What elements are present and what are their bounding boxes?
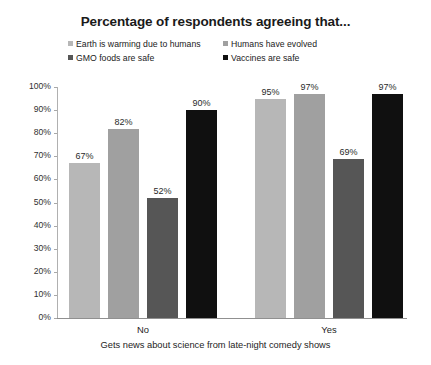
bar[interactable]: 97% — [372, 94, 403, 318]
legend-swatch-icon — [223, 41, 228, 46]
y-axis-tick-label: 90% — [34, 104, 51, 114]
legend-item[interactable]: GMO foods are safe — [68, 54, 223, 63]
y-axis-tick-mark — [54, 179, 57, 180]
bar-group: 95%97%69%97% — [255, 87, 403, 318]
legend-item-label: GMO foods are safe — [76, 54, 154, 63]
legend-item[interactable]: Humans have evolved — [223, 40, 378, 49]
legend-item-label: Humans have evolved — [231, 40, 317, 49]
bar-chart: Percentage of respondents agreeing that.… — [0, 0, 431, 365]
plot-area: 100%90%80%70%60%50%40%30%20%10%0%67%82%5… — [57, 87, 407, 318]
bar-rect — [186, 110, 217, 318]
x-axis-category-label: Yes — [255, 324, 403, 335]
y-axis-tick-mark — [54, 249, 57, 250]
y-axis-tick-mark — [54, 87, 57, 88]
y-axis-tick-label: 20% — [34, 266, 51, 276]
bar-value-label: 82% — [114, 117, 132, 127]
y-axis-tick-mark — [54, 110, 57, 111]
y-axis-tick-label: 0% — [39, 312, 51, 322]
y-axis-tick-label: 30% — [34, 243, 51, 253]
legend-swatch-icon — [68, 41, 73, 46]
y-axis-tick-mark — [54, 295, 57, 296]
bar[interactable]: 97% — [294, 94, 325, 318]
bar-rect — [108, 129, 139, 318]
y-axis-tick-label: 100% — [29, 81, 51, 91]
bar-rect — [69, 163, 100, 318]
bar-value-label: 69% — [339, 147, 357, 157]
legend-item-label: Earth is warming due to humans — [76, 40, 201, 49]
legend-item[interactable]: Vaccines are safe — [223, 54, 378, 63]
legend-swatch-icon — [68, 55, 73, 60]
legend-item-label: Vaccines are safe — [231, 54, 299, 63]
bar[interactable]: 69% — [333, 159, 364, 318]
bar-rect — [372, 94, 403, 318]
chart-title: Percentage of respondents agreeing that.… — [0, 14, 431, 29]
bar-rect — [333, 159, 364, 318]
y-axis-tick-mark — [54, 272, 57, 273]
bar[interactable]: 95% — [255, 99, 286, 318]
bar-group: 67%82%52%90% — [69, 87, 217, 318]
bar[interactable]: 82% — [108, 129, 139, 318]
bar-rect — [294, 94, 325, 318]
bar-value-label: 90% — [192, 98, 210, 108]
y-axis-tick-label: 10% — [34, 289, 51, 299]
legend-swatch-icon — [223, 55, 228, 60]
y-axis-tick-mark — [54, 226, 57, 227]
chart-legend: Earth is warming due to humansHumans hav… — [68, 37, 378, 65]
bar-value-label: 97% — [300, 82, 318, 92]
bar[interactable]: 90% — [186, 110, 217, 318]
y-axis-tick-mark — [54, 156, 57, 157]
bar[interactable]: 52% — [147, 198, 178, 318]
bar-rect — [255, 99, 286, 318]
bar-value-label: 52% — [153, 186, 171, 196]
bar[interactable]: 67% — [69, 163, 100, 318]
y-axis-tick-mark — [54, 133, 57, 134]
bar-value-label: 67% — [75, 151, 93, 161]
bar-rect — [147, 198, 178, 318]
x-axis-line — [57, 318, 407, 319]
y-axis-tick-label: 40% — [34, 220, 51, 230]
y-axis-tick-label: 50% — [34, 197, 51, 207]
legend-item[interactable]: Earth is warming due to humans — [68, 40, 223, 49]
bar-value-label: 97% — [378, 82, 396, 92]
y-axis-tick-label: 70% — [34, 150, 51, 160]
y-axis-tick-label: 80% — [34, 127, 51, 137]
y-axis-tick-mark — [54, 318, 57, 319]
x-axis-category-label: No — [69, 324, 217, 335]
y-axis-tick-mark — [54, 203, 57, 204]
bar-value-label: 95% — [261, 87, 279, 97]
y-axis-tick-label: 60% — [34, 173, 51, 183]
x-axis-title: Gets news about science from late-night … — [0, 340, 431, 350]
